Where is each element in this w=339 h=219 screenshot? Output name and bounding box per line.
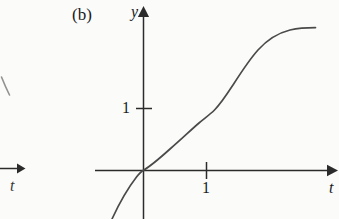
fragment-arrow-right-icon	[17, 163, 26, 173]
t-axis-label-right: t	[329, 180, 333, 196]
panel-label: (b)	[72, 6, 92, 23]
graph-canvas	[0, 0, 339, 219]
figure-panel-b: (b) y 1 1 t t	[0, 0, 339, 219]
t-axis-label-left-fragment: t	[10, 178, 14, 194]
y-tick-label-1: 1	[122, 100, 130, 116]
adjacent-panel-fragment	[0, 77, 26, 174]
y-axis-arrow-up-icon	[138, 6, 149, 17]
x-axis-arrow-right-icon	[327, 165, 338, 176]
y-axis-label: y	[131, 4, 138, 20]
x-tick-label-1: 1	[202, 180, 210, 196]
fragment-curve	[2, 77, 10, 95]
curve-y-of-t	[112, 28, 316, 219]
axes	[95, 6, 338, 219]
